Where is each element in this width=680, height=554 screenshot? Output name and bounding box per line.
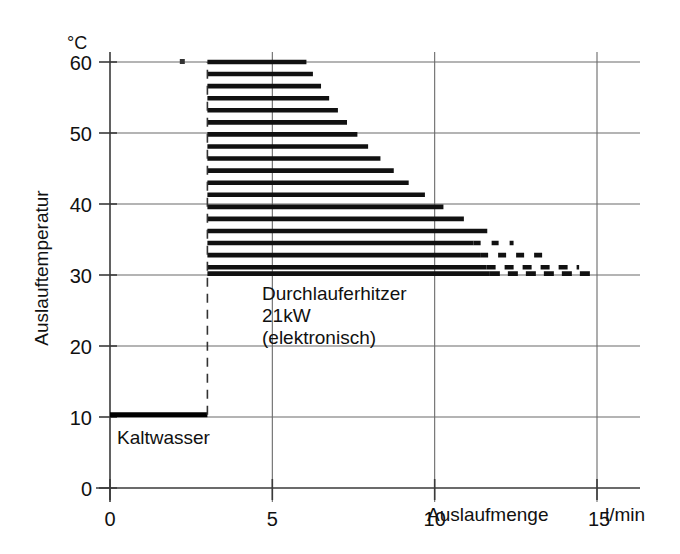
x-axis-title: Auslaufmenge [427, 504, 548, 525]
y-tick-label-20: 20 [70, 336, 92, 358]
y-tick-label-0: 0 [81, 478, 92, 500]
x-tick-label-5: 5 [267, 508, 278, 530]
y-tick-labels: 0102030405060 [70, 52, 92, 500]
y-axis-unit-label: °C [67, 33, 87, 53]
print-speck [180, 59, 185, 64]
y-tick-label-10: 10 [70, 407, 92, 429]
x-tick-label-0: 0 [104, 508, 115, 530]
device-annotation-line1: Durchlauferhitzer [262, 283, 407, 304]
y-tick-label-50: 50 [70, 123, 92, 145]
device-annotation-line3: (elektronisch) [262, 327, 376, 348]
cold-water-annotation: Kaltwasser [117, 427, 211, 448]
y-tick-label-30: 30 [70, 265, 92, 287]
y-tick-label-60: 60 [70, 52, 92, 74]
device-annotation: Durchlauferhitzer 21kW (elektronisch) [262, 283, 407, 348]
y-axis-title: Auslauftemperatur [31, 190, 52, 346]
hatched-operating-region [207, 62, 597, 274]
chart-container: 0102030405060 051015 °C Auslauftemperatu… [0, 0, 680, 554]
x-axis-unit-label: l/min [605, 504, 645, 525]
water-heater-temperature-chart: 0102030405060 051015 °C Auslauftemperatu… [0, 0, 680, 554]
y-tick-label-40: 40 [70, 194, 92, 216]
print-speck-mark [180, 59, 185, 64]
device-annotation-line2: 21kW [262, 305, 311, 326]
